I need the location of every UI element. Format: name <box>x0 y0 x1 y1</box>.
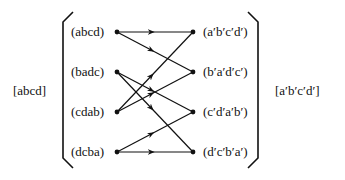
edge <box>117 72 193 152</box>
left-node-dot <box>115 30 120 35</box>
outer-right-label: [a′b′c′d′] <box>275 83 320 99</box>
outer-left-label: [abcd] <box>13 83 46 99</box>
right-node-dot <box>191 110 196 115</box>
right-node-dot <box>191 70 196 75</box>
right-bracket <box>248 12 258 168</box>
right-node-label-3: (d′c′b′a′) <box>203 144 248 160</box>
right-node-dot <box>191 150 196 155</box>
bipartite-mapping-diagram: [abcd] [a′b′c′d′] (abcd) (badc) (cdab) (… <box>0 0 345 180</box>
left-node-label-cdab: (cdab) <box>71 104 104 120</box>
left-node-label-badc: (badc) <box>71 64 104 80</box>
right-node-label-2: (c′d′a′b′) <box>203 104 248 120</box>
edge <box>117 32 193 72</box>
left-node-label-dcba: (dcba) <box>71 144 104 160</box>
left-node-dot <box>115 110 120 115</box>
edge-group <box>117 32 193 152</box>
right-node-label-1: (b′a′d′c′) <box>203 64 248 80</box>
edge <box>117 32 193 112</box>
edge <box>117 112 193 152</box>
right-node-label-0: (a′b′c′d′) <box>203 24 248 40</box>
left-node-label-abcd: (abcd) <box>71 24 104 40</box>
left-node-dot <box>115 150 120 155</box>
right-node-dot <box>191 30 196 35</box>
left-node-dot <box>115 70 120 75</box>
